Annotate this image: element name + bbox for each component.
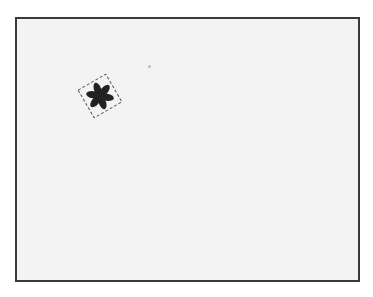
flower-icon	[78, 74, 122, 118]
dot-icon	[148, 65, 151, 68]
flower-sprite[interactable]	[78, 74, 122, 118]
stage-canvas[interactable]	[15, 17, 360, 282]
